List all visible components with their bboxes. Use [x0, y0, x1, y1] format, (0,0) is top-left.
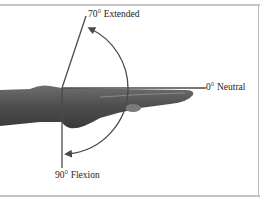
- extended-label: 70° Extended: [88, 10, 140, 20]
- extended-line: [62, 16, 86, 88]
- extension-arc-arrow: [91, 29, 128, 88]
- neutral-label: 0° Neutral: [206, 83, 245, 93]
- wrist-rom-diagram: [0, 0, 260, 203]
- flexion-label: 90° Flexion: [55, 171, 100, 181]
- thumb-shadow: [125, 104, 141, 112]
- forearm-hand-image: [0, 85, 193, 128]
